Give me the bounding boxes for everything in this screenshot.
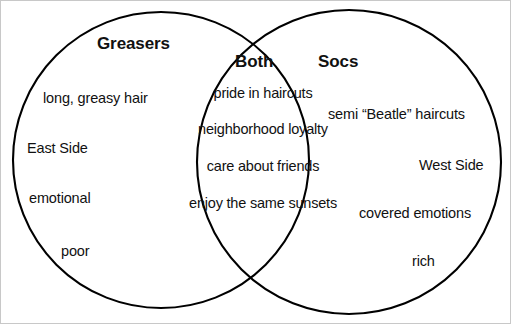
socs-item-semi-beatle-haircuts: semi “Beatle” haircuts (328, 107, 465, 123)
venn-diagram-page: Greasers long, greasy hair East Side emo… (0, 0, 511, 324)
greasers-item-emotional: emotional (29, 191, 91, 207)
both-item-care-about-friends: care about friends (188, 158, 338, 174)
socs-heading: Socs (318, 53, 358, 71)
socs-item-rich: rich (412, 254, 435, 270)
greasers-heading: Greasers (97, 35, 170, 53)
socs-item-west-side: West Side (419, 158, 483, 174)
both-item-enjoy-the-same-sunsets: enjoy the same sunsets (188, 195, 338, 211)
both-item-neighborhood-loyalty: neighborhood loyalty (188, 121, 338, 137)
greasers-item-poor: poor (61, 244, 89, 260)
socs-item-covered-emotions: covered emotions (359, 206, 471, 222)
greasers-item-long-greasy-hair: long, greasy hair (43, 91, 148, 107)
greasers-item-east-side: East Side (27, 141, 88, 157)
both-heading: Both (235, 53, 273, 71)
both-item-pride-in-haircuts: pride in haircuts (188, 85, 338, 101)
